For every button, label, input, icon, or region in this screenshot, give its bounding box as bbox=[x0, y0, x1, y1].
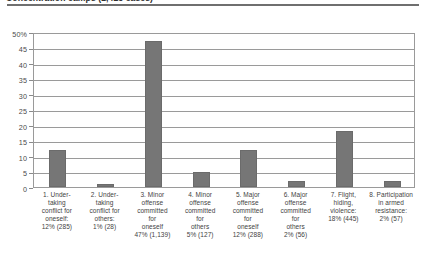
y-axis-tick-label: 25 bbox=[19, 107, 27, 116]
y-axis-tick-label: 15 bbox=[19, 138, 27, 147]
x-axis-category-labels: 1. Under-takingconflict foroneself:12% (… bbox=[33, 191, 415, 261]
y-axis-tick-label: 5 bbox=[23, 169, 27, 178]
category-label-line: resistance: bbox=[363, 207, 419, 215]
y-axis-tick-label: 45 bbox=[19, 45, 27, 54]
y-axis-tick-label: 40 bbox=[19, 60, 27, 69]
gridline bbox=[34, 173, 414, 174]
y-axis: 05101520253035404550% bbox=[0, 33, 33, 189]
bar bbox=[49, 150, 66, 187]
gridline bbox=[34, 80, 414, 81]
y-axis-tick-label: 0 bbox=[23, 184, 27, 193]
y-axis-tick-label: 50% bbox=[12, 29, 27, 38]
y-axis-tick-label: 10 bbox=[19, 153, 27, 162]
gridline bbox=[34, 49, 414, 50]
y-axis-tick-mark bbox=[29, 188, 33, 189]
category-label-line: 8. Participation bbox=[363, 191, 419, 199]
bar bbox=[97, 184, 114, 187]
gridline bbox=[34, 142, 414, 143]
category-data-label: 2% (56) bbox=[268, 231, 324, 239]
y-axis-tick-label: 35 bbox=[19, 76, 27, 85]
bar bbox=[384, 181, 401, 187]
gridline bbox=[34, 158, 414, 159]
bar bbox=[240, 150, 257, 187]
plot-area bbox=[33, 33, 415, 188]
gridline bbox=[34, 65, 414, 66]
bar-chart-figure: Concentration camps (2,425 cases) 051015… bbox=[0, 0, 429, 264]
category-data-label: 2% (57) bbox=[363, 215, 419, 223]
gridline bbox=[34, 111, 414, 112]
category-label-line: in armed bbox=[363, 199, 419, 207]
y-axis-tick-label: 30 bbox=[19, 91, 27, 100]
x-axis-category-label: 8. Participationin armedresistance:2% (5… bbox=[363, 191, 419, 223]
gridline bbox=[34, 127, 414, 128]
bar bbox=[193, 172, 210, 188]
bar bbox=[336, 131, 353, 187]
bar bbox=[288, 181, 305, 187]
gridline bbox=[34, 96, 414, 97]
category-label-line: others bbox=[268, 223, 324, 231]
title-divider bbox=[7, 4, 419, 6]
bar bbox=[145, 41, 162, 187]
y-axis-tick-label: 20 bbox=[19, 122, 27, 131]
